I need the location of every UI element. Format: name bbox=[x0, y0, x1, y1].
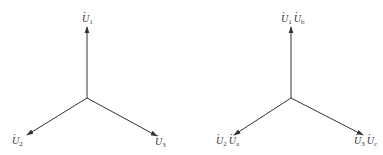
label-u1: U1 bbox=[82, 14, 93, 26]
phasor-symbol: U bbox=[12, 136, 19, 146]
phasor-diagram-right bbox=[234, 27, 363, 135]
label-u2-ua: U2Ua bbox=[216, 136, 239, 148]
phasor-u3-arrow bbox=[87, 98, 157, 136]
phasor-u2-ua-arrow bbox=[234, 98, 291, 135]
phasor-u3-uc-arrow bbox=[291, 98, 363, 135]
phasor-symbol: U bbox=[82, 14, 89, 24]
phasor-diagram-left bbox=[27, 27, 157, 136]
label-u3: U3 bbox=[155, 137, 166, 149]
phasor-u2-arrow bbox=[27, 98, 87, 135]
label-u1-ub: U1Ub bbox=[281, 14, 304, 26]
label-u3-uc: U3Uc bbox=[354, 136, 377, 148]
label-u2: U2 bbox=[12, 136, 23, 148]
phasor-symbol: U bbox=[155, 137, 162, 147]
phasor-diagrams-canvas bbox=[0, 0, 383, 155]
